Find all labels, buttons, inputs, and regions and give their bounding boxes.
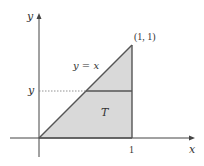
y-axis-arrow-icon xyxy=(37,13,42,19)
point-label: (1, 1) xyxy=(134,31,156,43)
y-level-label: y xyxy=(27,84,35,97)
region-diagram: y x (1, 1) y = x y T 1 xyxy=(0,0,204,166)
curve-label: y = x xyxy=(72,60,99,71)
y-axis-label: y xyxy=(26,10,34,23)
x-axis-arrow-icon xyxy=(189,136,195,141)
x-tick-label: 1 xyxy=(129,144,134,155)
x-axis-label: x xyxy=(189,143,196,156)
